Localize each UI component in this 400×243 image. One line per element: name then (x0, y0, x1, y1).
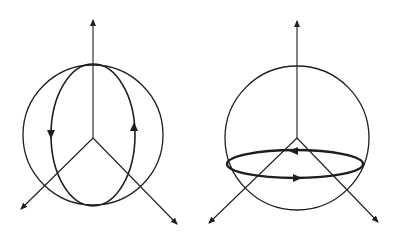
left-loop-arrow-down-icon (47, 130, 55, 139)
left-panel-vertical-loop (21, 20, 177, 224)
right-loop-arrow-right-icon (293, 174, 302, 182)
figure-canvas (0, 0, 400, 243)
right-horizontal-loop (227, 150, 363, 178)
left-y-axis (93, 138, 177, 224)
right-loop-arrow-left-icon (289, 147, 298, 155)
right-panel-horizontal-loop (209, 21, 378, 223)
left-loop-arrow-up-icon (130, 122, 138, 131)
